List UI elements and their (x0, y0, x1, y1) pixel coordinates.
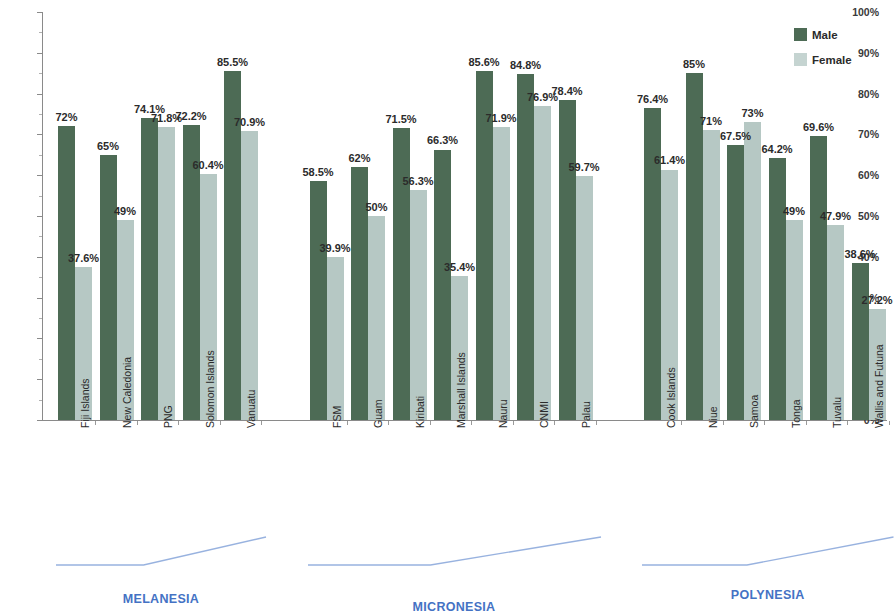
bar-female (327, 257, 344, 420)
region-label-melanesia: MELANESIA (52, 592, 270, 606)
bar-value-label: 85% (667, 58, 721, 70)
bar-value-label: 61.4% (643, 154, 697, 166)
y-axis-line (42, 12, 43, 420)
bar-value-label: 27.2% (850, 294, 894, 306)
y-tick-mark (37, 175, 42, 176)
bar-value-label: 66.3% (416, 134, 470, 146)
y-tick-minor (39, 318, 42, 319)
region-swoosh-line (638, 535, 894, 571)
x-category-label: Nauru (497, 399, 509, 428)
bar-value-label: 50% (350, 201, 404, 213)
y-tick-label: 60% (841, 170, 879, 180)
region-label-micronesia: MICRONESIA (304, 600, 605, 614)
x-category-label: Guam (372, 399, 384, 428)
y-tick-label: 70% (841, 129, 879, 139)
y-tick-minor (39, 196, 42, 197)
bar-male (141, 118, 158, 420)
legend-swatch-male-icon (794, 28, 807, 41)
bar-male (727, 145, 744, 420)
y-tick-mark (37, 257, 42, 258)
bar-female (703, 130, 720, 420)
bar-value-label: 72% (40, 111, 94, 123)
bar-value-label: 73% (726, 107, 780, 119)
region-label-polynesia: POLYNESIA (638, 588, 894, 602)
x-tick-mark (513, 421, 514, 425)
bar-value-label: 62% (333, 152, 387, 164)
bar-male (393, 128, 410, 420)
bar-value-label: 49% (98, 205, 152, 217)
x-category-label: Wallis and Futuna (873, 344, 885, 428)
x-tick-mark (95, 421, 96, 425)
bar-value-label: 65% (81, 140, 135, 152)
y-tick-minor (39, 277, 42, 278)
x-tick-mark (261, 421, 262, 425)
x-category-label: Kiribati (414, 396, 426, 428)
bar-female (241, 131, 258, 420)
bar-value-label: 72.2% (164, 110, 218, 122)
bar-female (158, 127, 175, 420)
bar-value-label: 70.9% (223, 116, 277, 128)
x-category-label: Samoa (748, 395, 760, 428)
bar-value-label: 56.3% (391, 175, 445, 187)
x-tick-mark (806, 421, 807, 425)
x-category-label: PNG (162, 405, 174, 428)
x-category-label: New Caledonia (121, 357, 133, 428)
y-tick-mark (37, 338, 42, 339)
x-category-label: FSM (331, 406, 343, 428)
y-tick-mark (37, 53, 42, 54)
y-tick-minor (39, 400, 42, 401)
region-swoosh-line (52, 535, 270, 571)
bar-female (576, 176, 593, 420)
bar-value-label: 69.6% (792, 121, 846, 133)
y-tick-minor (39, 155, 42, 156)
x-category-label: Fiji Islands (79, 378, 91, 428)
x-category-label: Marshall Islands (455, 352, 467, 428)
x-category-label: Niue (707, 406, 719, 428)
x-category-label: CNMI (538, 401, 550, 428)
bar-value-label: 38.6% (833, 248, 887, 260)
x-tick-mark (388, 421, 389, 425)
legend-swatch-female-icon (794, 53, 807, 66)
bar-male (559, 100, 576, 420)
y-tick-mark (37, 216, 42, 217)
bar-male (852, 263, 869, 420)
bar-female (786, 220, 803, 420)
y-tick-mark (37, 134, 42, 135)
bar-value-label: 84.8% (499, 59, 553, 71)
x-category-label: Solomon Islands (204, 350, 216, 428)
bar-male (310, 181, 327, 420)
x-category-label: Tonga (790, 399, 802, 428)
bar-value-label: 67.5% (709, 130, 763, 142)
bar-male (769, 158, 786, 420)
x-tick-mark (137, 421, 138, 425)
y-tick-minor (39, 236, 42, 237)
bar-value-label: 37.6% (57, 252, 111, 264)
x-tick-mark (220, 421, 221, 425)
x-tick-mark (430, 421, 431, 425)
bar-value-label: 78.4% (540, 85, 594, 97)
bar-female (744, 122, 761, 420)
bar-value-label: 35.4% (433, 261, 487, 273)
x-tick-mark (764, 421, 765, 425)
bar-value-label: 39.9% (308, 242, 362, 254)
bar-male (517, 74, 534, 420)
bar-value-label: 47.9% (809, 210, 863, 222)
bar-value-label: 58.5% (291, 166, 345, 178)
legend-item-female: Female (794, 53, 880, 66)
bar-value-label: 59.7% (557, 161, 611, 173)
x-tick-mark (471, 421, 472, 425)
y-tick-mark (37, 379, 42, 380)
x-tick-mark (889, 421, 890, 425)
x-category-label: Tuvalu (831, 397, 843, 428)
bar-value-label: 71.9% (474, 112, 528, 124)
y-tick-mark (37, 12, 42, 13)
x-category-label: Cook Islands (665, 367, 677, 428)
bar-value-label: 76.4% (626, 93, 680, 105)
legend-label-male: Male (812, 29, 838, 41)
legend-label-female: Female (812, 54, 852, 66)
y-tick-mark (37, 420, 42, 421)
y-tick-minor (39, 73, 42, 74)
bar-male (100, 155, 117, 420)
bar-male (810, 136, 827, 420)
x-tick-mark (554, 421, 555, 425)
